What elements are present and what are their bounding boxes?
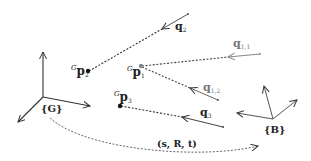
transform-label: (s, R, t): [157, 138, 197, 150]
ray-p1-q11: [142, 57, 228, 66]
frame-b: {B}: [237, 86, 297, 135]
frame-b-label: {B}: [264, 124, 285, 135]
transform-path: [50, 118, 258, 152]
label-q12: q1,2: [203, 81, 220, 94]
label-q11: q1,1: [233, 37, 250, 50]
bearing-q12-tail: [217, 99, 219, 101]
label-q2: q2: [175, 20, 187, 33]
ray-p3-q3: [121, 106, 182, 117]
projection-rays: [89, 29, 228, 117]
bearing-q2-tail: [187, 13, 189, 15]
bearing-q3-tail: [222, 126, 224, 128]
frame-g: {G}: [18, 52, 90, 122]
frame-b-axis-up: [264, 86, 273, 119]
bearing-q11-tail: [259, 53, 261, 55]
registration-diagram: {G} {B} Gp2 Gp1: [0, 0, 311, 161]
label-q3: q3: [200, 106, 212, 119]
bearing-labels: q2 q1,1 q1,2 q3: [175, 20, 250, 119]
frame-b-axis-right: [273, 100, 297, 119]
label-p2: Gp2: [71, 64, 89, 78]
bearing-q11: [228, 54, 260, 57]
frame-g-axis-down-left: [18, 97, 43, 122]
label-p3: Gp3: [114, 90, 132, 104]
point-p3: [118, 104, 122, 108]
frame-b-axis-left: [237, 113, 273, 119]
point-labels: Gp2 Gp1 Gp3: [71, 64, 145, 104]
frame-g-label: {G}: [41, 103, 62, 114]
transform-curve: (s, R, t): [50, 118, 258, 152]
ray-p1-q12: [142, 67, 190, 88]
